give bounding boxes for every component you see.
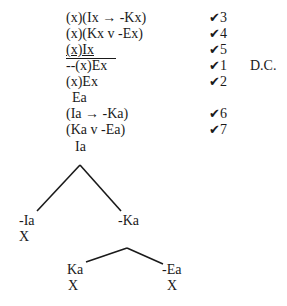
closed-branch-marker: X [167, 278, 177, 294]
tree-right-right-branch: -Ea [162, 262, 181, 278]
closed-branch-marker: X [68, 278, 78, 294]
tree-right-branch: -Ka [118, 213, 139, 229]
tree-left-branch: -Ia [19, 213, 35, 229]
tree-root: Ia [75, 139, 86, 155]
tree-branches [0, 0, 287, 306]
tree-right-left-branch: Ka [67, 262, 83, 278]
closed-branch-marker: X [19, 229, 29, 245]
